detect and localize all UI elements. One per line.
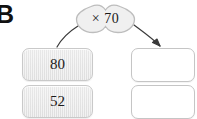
output-box-1[interactable] bbox=[131, 48, 195, 82]
input-box-1[interactable]: 80 bbox=[22, 48, 93, 81]
input-box-2[interactable]: 52 bbox=[22, 85, 93, 118]
function-machine-worksheet: B × 70 80 52 bbox=[0, 0, 197, 119]
output-box-2[interactable] bbox=[131, 85, 195, 119]
rule-expression: × 70 bbox=[75, 3, 136, 34]
